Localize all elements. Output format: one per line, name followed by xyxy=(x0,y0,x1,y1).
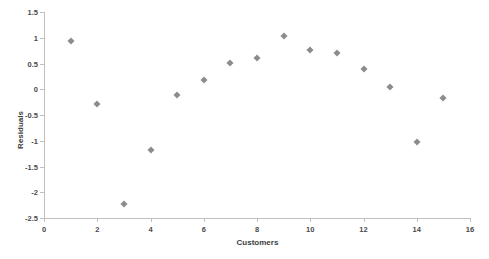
data-point-marker xyxy=(94,100,101,107)
x-tick-mark xyxy=(257,218,258,222)
data-point-marker xyxy=(174,92,181,99)
y-tick-label: 1 xyxy=(34,33,38,42)
data-point-marker xyxy=(227,59,234,66)
y-tick-mark xyxy=(40,167,44,168)
x-axis-title: Customers xyxy=(44,238,471,247)
y-tick-mark xyxy=(40,115,44,116)
data-point-marker xyxy=(120,201,127,208)
data-point-marker xyxy=(147,146,154,153)
plot-area: 1.510.50-0.5-1-1.5-2-2.5 xyxy=(44,12,470,218)
x-tick-mark xyxy=(470,218,471,222)
data-point-marker xyxy=(387,84,394,91)
data-point-marker xyxy=(307,47,314,54)
x-tick-mark xyxy=(417,218,418,222)
y-tick-label: -0.5 xyxy=(25,111,38,120)
data-point-marker xyxy=(440,94,447,101)
data-point-marker xyxy=(253,54,260,61)
y-tick-mark xyxy=(40,12,44,13)
x-tick-label: 6 xyxy=(202,225,206,234)
data-point-marker xyxy=(280,32,287,39)
y-tick-mark xyxy=(40,38,44,39)
y-tick-label: -1 xyxy=(31,136,38,145)
x-tick-label: 4 xyxy=(148,225,152,234)
data-point-marker xyxy=(333,49,340,56)
y-tick-mark xyxy=(40,192,44,193)
x-tick-label: 16 xyxy=(466,225,474,234)
y-tick-label: 0 xyxy=(34,85,38,94)
y-tick-label: -2.5 xyxy=(25,214,38,223)
y-tick-label: 0.5 xyxy=(28,59,38,68)
x-tick-mark xyxy=(151,218,152,222)
x-tick-mark xyxy=(97,218,98,222)
x-tick-label: 12 xyxy=(359,225,367,234)
y-tick-label: -1.5 xyxy=(25,162,38,171)
x-tick-mark xyxy=(364,218,365,222)
x-tick-label: 14 xyxy=(413,225,421,234)
y-tick-label: -2 xyxy=(31,188,38,197)
data-point-marker xyxy=(67,37,74,44)
x-tick-mark xyxy=(310,218,311,222)
x-tick-mark xyxy=(44,218,45,222)
data-point-marker xyxy=(360,66,367,73)
y-tick-mark xyxy=(40,64,44,65)
y-tick-label: 1.5 xyxy=(28,8,38,17)
x-tick-label: 0 xyxy=(42,225,46,234)
x-tick-label: 10 xyxy=(306,225,314,234)
y-axis-title: Residuals xyxy=(16,111,25,149)
x-tick-label: 8 xyxy=(255,225,259,234)
data-point-marker xyxy=(200,77,207,84)
y-tick-mark xyxy=(40,89,44,90)
data-point-marker xyxy=(413,138,420,145)
x-tick-label: 2 xyxy=(95,225,99,234)
x-axis-ticks: 0246810121416 xyxy=(44,218,471,238)
x-tick-mark xyxy=(204,218,205,222)
residual-scatter-chart: 1.510.50-0.5-1-1.5-2-2.5 0246810121416 R… xyxy=(0,0,489,259)
y-tick-mark xyxy=(40,141,44,142)
